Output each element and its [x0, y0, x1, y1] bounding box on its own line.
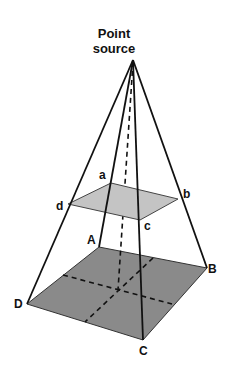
edge-to-A [99, 60, 133, 247]
label-A: A [87, 233, 96, 247]
label-d: d [56, 199, 63, 213]
edge-to-B [133, 60, 207, 268]
label-C: C [139, 344, 148, 358]
inverse-square-pyramid-diagram [0, 0, 228, 375]
label-b: b [183, 187, 190, 201]
label-a: a [99, 168, 106, 182]
label-D: D [14, 297, 23, 311]
upper-plane-abcd [68, 183, 178, 220]
label-B: B [208, 262, 217, 276]
lower-plane-ABCD [27, 247, 207, 340]
label-c: c [144, 219, 151, 233]
